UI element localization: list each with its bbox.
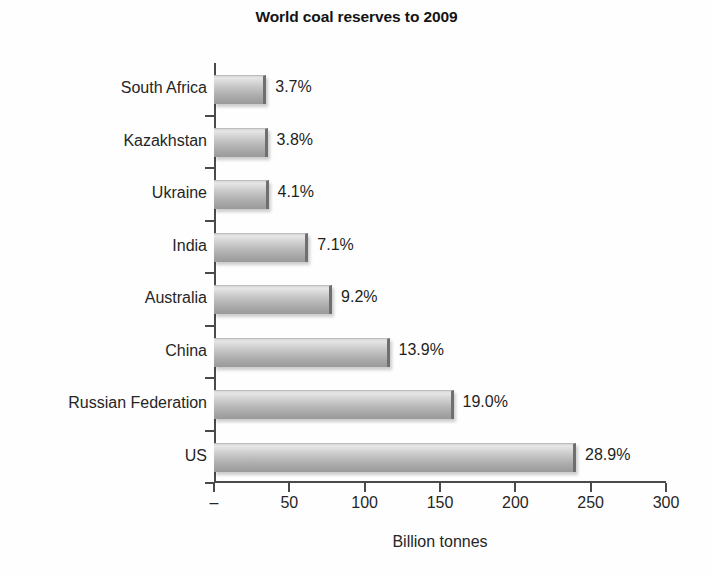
x-tick-label-2: 100: [351, 494, 378, 512]
bar-row: 28.9%: [214, 443, 666, 471]
category-label-australia: Australia: [7, 289, 207, 307]
bar-row: 7.1%: [214, 233, 666, 261]
x-tick-1: [288, 483, 290, 492]
category-label-kazakhstan: Kazakhstan: [7, 132, 207, 150]
x-tick-label-5: 250: [577, 494, 604, 512]
plot-area: –50100150200250300 3.7%3.8%4.1%7.1%9.2%1…: [214, 63, 666, 483]
category-label-russian-federation: Russian Federation: [7, 394, 207, 412]
bar-value-label: 4.1%: [278, 183, 314, 201]
y-tick-1: [205, 115, 214, 117]
bar-row: 3.7%: [214, 75, 666, 103]
x-tick-label-4: 200: [502, 494, 529, 512]
y-axis-line: [214, 63, 216, 483]
category-label-china: China: [7, 342, 207, 360]
x-tick-3: [439, 483, 441, 492]
bar-china: [214, 338, 390, 367]
bar-value-label: 19.0%: [463, 393, 508, 411]
x-tick-2: [364, 483, 366, 492]
y-tick-4: [205, 272, 214, 274]
category-label-india: India: [7, 237, 207, 255]
y-tick-3: [205, 220, 214, 222]
chart-container: World coal reserves to 2009 South Africa…: [0, 0, 713, 576]
x-axis-title: Billion tonnes: [214, 533, 666, 551]
bar-row: 9.2%: [214, 285, 666, 313]
y-axis-category-labels: South AfricaKazakhstanUkraineIndiaAustra…: [4, 63, 207, 483]
bar-row: 4.1%: [214, 180, 666, 208]
x-tick-5: [590, 483, 592, 492]
bar-australia: [214, 285, 332, 314]
y-tick-7: [205, 430, 214, 432]
x-tick-6: [665, 483, 667, 492]
bar-value-label: 3.7%: [275, 78, 311, 96]
x-tick-4: [514, 483, 516, 492]
x-tick-label-1: 50: [280, 494, 298, 512]
x-tick-label-3: 150: [427, 494, 454, 512]
y-tick-5: [205, 325, 214, 327]
chart-title: World coal reserves to 2009: [0, 8, 713, 26]
bar-value-label: 28.9%: [585, 446, 630, 464]
category-label-ukraine: Ukraine: [7, 184, 207, 202]
bar-ukraine: [214, 180, 269, 209]
y-tick-2: [205, 167, 214, 169]
bar-row: 19.0%: [214, 390, 666, 418]
bar-us: [214, 443, 576, 472]
bar-row: 13.9%: [214, 338, 666, 366]
bar-value-label: 13.9%: [399, 341, 444, 359]
y-tick-6: [205, 377, 214, 379]
bar-value-label: 3.8%: [277, 131, 313, 149]
x-tick-0: [213, 483, 215, 492]
bar-india: [214, 233, 308, 262]
bar-value-label: 7.1%: [317, 236, 353, 254]
bar-south-africa: [214, 75, 266, 104]
bar-russian-federation: [214, 390, 454, 419]
category-label-us: US: [7, 447, 207, 465]
x-tick-label-0: –: [210, 494, 219, 512]
category-label-south-africa: South Africa: [7, 79, 207, 97]
x-tick-label-6: 300: [653, 494, 680, 512]
bar-value-label: 9.2%: [341, 288, 377, 306]
bar-row: 3.8%: [214, 128, 666, 156]
bar-kazakhstan: [214, 128, 268, 157]
